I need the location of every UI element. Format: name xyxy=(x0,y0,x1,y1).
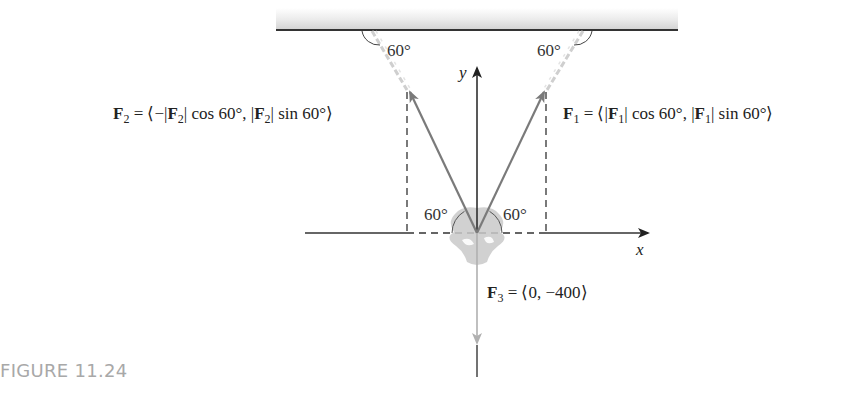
figure-caption: FIGURE 11.24 xyxy=(0,360,128,381)
f3-symbol: F xyxy=(487,283,497,302)
chain-right xyxy=(543,31,583,90)
chain-left xyxy=(372,31,411,90)
f2-mid1: | cos 60°, | xyxy=(184,104,254,123)
f2-symbol-2: F xyxy=(167,104,177,123)
f1-symbol: F xyxy=(563,104,573,123)
f3-eq: = ⟨0, −400⟩ xyxy=(503,283,587,302)
f1-symbol-2: F xyxy=(608,104,618,123)
figure-diagram: 60° 60° 60° 60° y x F2 = ⟨−|F2| cos 60°,… xyxy=(0,0,859,417)
f2-mid2: | sin 60°⟩ xyxy=(271,104,334,123)
force-label-f3: F3 = ⟨0, −400⟩ xyxy=(487,284,588,304)
angle-label-bottom-right: 60° xyxy=(503,206,527,223)
f2-symbol: F xyxy=(113,104,123,123)
y-axis-label: y xyxy=(459,64,467,81)
x-axis-label: x xyxy=(636,241,644,258)
f2-symbol-3: F xyxy=(254,104,264,123)
angle-label-top-left: 60° xyxy=(387,42,411,59)
f2-eq: = ⟨−| xyxy=(129,104,167,123)
f1-eq: = ⟨| xyxy=(579,104,608,123)
angle-label-top-right: 60° xyxy=(537,42,561,59)
ceiling xyxy=(276,8,678,30)
f1-mid1: | cos 60°, | xyxy=(624,104,694,123)
f1-symbol-3: F xyxy=(695,104,705,123)
force-label-f1: F1 = ⟨|F1| cos 60°, |F1| sin 60°⟩ xyxy=(563,105,774,125)
angle-label-bottom-left: 60° xyxy=(424,206,448,223)
force-label-f2: F2 = ⟨−|F2| cos 60°, |F2| sin 60°⟩ xyxy=(113,105,333,125)
f1-mid2: | sin 60°⟩ xyxy=(711,104,774,123)
